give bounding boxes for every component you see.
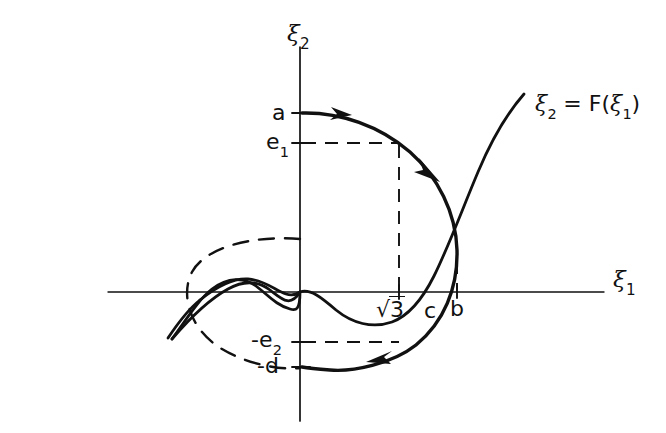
eq-close-paren: )	[631, 91, 640, 116]
trajectory-curve	[302, 113, 457, 370]
sqrt-radicand: 3	[389, 296, 405, 322]
trajectory-arrow-bottom	[366, 351, 392, 364]
label-neg-d: -d	[257, 355, 279, 377]
phase-plane-svg	[0, 0, 666, 433]
label-e1-subscript: 1	[280, 144, 289, 160]
xi2-subscript: 2	[300, 35, 310, 53]
xi1-subscript: 1	[626, 281, 636, 299]
f-curve-lower-tail	[168, 300, 200, 338]
label-neg-e2: -e2	[251, 329, 282, 355]
eq-xi1-symbol: ξ	[610, 91, 622, 116]
dashed-closed-orbit	[187, 238, 300, 368]
eq-xi1-subscript: 1	[622, 106, 631, 122]
label-a: a	[272, 102, 285, 124]
label-e1: e1	[266, 131, 289, 157]
xi2-symbol: ξ	[287, 20, 300, 46]
xi1-symbol: ξ	[613, 266, 626, 292]
figure-canvas: ξ2 ξ1 ξ2 = F(ξ1) a e1 -e2 -d √3 c b	[0, 0, 666, 433]
axis-label-xi2: ξ2	[287, 22, 309, 50]
label-b: b	[450, 298, 464, 320]
label-neg-e2-text: -e	[251, 327, 272, 352]
curve-equation-label: ξ2 = F(ξ1)	[535, 93, 640, 119]
eq-xi2-subscript: 2	[547, 106, 556, 122]
label-c: c	[424, 300, 436, 322]
label-sqrt3: √3	[376, 299, 405, 321]
eq-operator: = F(	[556, 91, 610, 116]
label-e1-text: e	[266, 129, 280, 154]
f-curve	[200, 94, 524, 325]
axis-label-xi1: ξ1	[613, 268, 635, 296]
eq-xi2-symbol: ξ	[535, 91, 547, 116]
sqrt-radical-sign: √	[376, 297, 390, 322]
